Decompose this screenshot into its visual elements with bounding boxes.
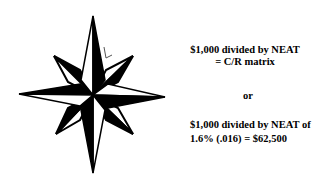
- formula-1-line-1: $1,000 divided by NEAT: [188, 44, 302, 56]
- formula-block-2: $1,000 divided by NEAT of 1.6% (.016) = …: [190, 118, 311, 146]
- formula-2-line-2: 1.6% (.016) = $62,500: [190, 132, 311, 146]
- compass-rose-icon: [0, 0, 190, 180]
- separator-or: or: [188, 90, 308, 102]
- formula-block-1: $1,000 divided by NEAT = C/R matrix: [188, 44, 302, 68]
- formula-2-line-1: $1,000 divided by NEAT of: [190, 118, 311, 132]
- formula-1-line-2: = C/R matrix: [188, 56, 302, 68]
